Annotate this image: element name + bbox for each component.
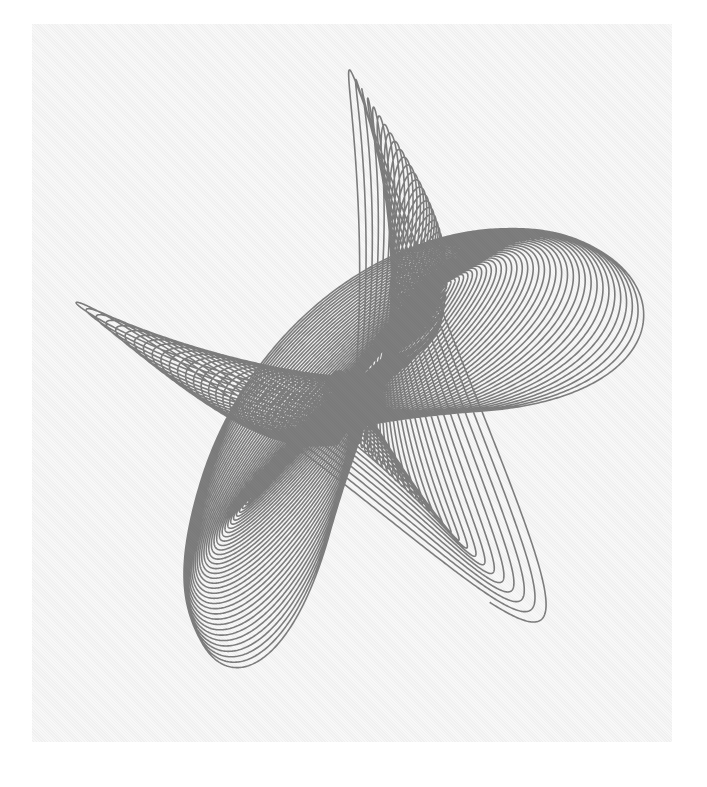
harmonograph-drawing <box>0 0 707 787</box>
